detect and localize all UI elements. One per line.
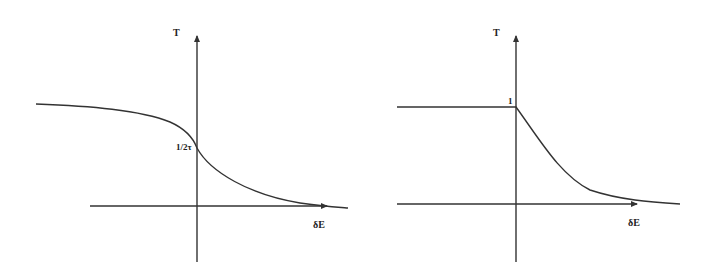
right-curve xyxy=(397,107,680,204)
left-x-axis-label: δE xyxy=(313,220,325,230)
right-panel xyxy=(397,36,680,262)
right-y-axis-label: T xyxy=(493,28,500,38)
left-y-axis-label: T xyxy=(173,28,180,38)
right-intercept-label: 1 xyxy=(508,97,513,106)
right-x-axis-label: δE xyxy=(628,218,640,228)
left-curve xyxy=(36,104,348,208)
diagram-canvas xyxy=(0,0,713,274)
left-intercept-label: 1/2τ xyxy=(176,143,192,152)
left-panel xyxy=(36,36,348,262)
